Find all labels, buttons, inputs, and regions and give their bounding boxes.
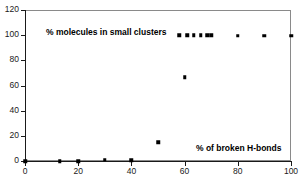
- y-tick-mark: [21, 10, 25, 11]
- y-tick-label: 100: [5, 30, 19, 39]
- data-point: [236, 34, 240, 38]
- data-point: [156, 140, 160, 144]
- x-tick-label: 100: [284, 167, 298, 176]
- data-point: [58, 159, 62, 163]
- scatter-chart: 020406080100120 020406080100 % molecules…: [0, 0, 304, 184]
- data-point: [289, 34, 293, 38]
- data-point: [183, 76, 187, 80]
- x-tick-label: 40: [127, 167, 136, 176]
- y-tick-label: 20: [10, 131, 19, 140]
- data-point: [130, 159, 134, 163]
- x-tick-label: 0: [23, 167, 28, 176]
- x-tick-label: 60: [180, 167, 189, 176]
- data-point: [178, 33, 182, 37]
- data-point: [76, 159, 80, 163]
- data-point: [186, 33, 190, 37]
- x-tick-label: 20: [73, 167, 82, 176]
- y-tick-label: 60: [10, 81, 19, 90]
- y-axis-line: [25, 10, 26, 162]
- data-point: [263, 34, 267, 38]
- data-point: [23, 159, 27, 163]
- x-axis-label: % of broken H-bonds: [196, 143, 281, 153]
- data-point: [199, 33, 203, 37]
- y-tick-label: 40: [10, 106, 19, 115]
- data-point: [209, 33, 213, 37]
- data-point: [205, 33, 209, 37]
- x-axis-line: [25, 161, 292, 162]
- data-point: [103, 158, 107, 162]
- y-tick-mark: [21, 35, 25, 36]
- y-tick-label: 80: [10, 55, 19, 64]
- y-tick-mark: [21, 86, 25, 87]
- x-tick-label: 80: [233, 167, 242, 176]
- data-point: [192, 33, 196, 37]
- y-tick-mark: [21, 136, 25, 137]
- y-tick-mark: [21, 111, 25, 112]
- y-tick-mark: [21, 60, 25, 61]
- y-tick-label: 0: [14, 156, 19, 165]
- series-label: % molecules in small clusters: [46, 27, 166, 37]
- y-tick-label: 120: [5, 5, 19, 14]
